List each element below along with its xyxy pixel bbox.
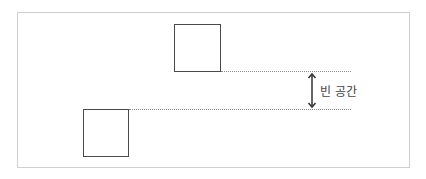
- top-square: [174, 24, 221, 72]
- empty-space-label: 빈 공간: [320, 82, 357, 99]
- bottom-square: [83, 109, 129, 157]
- bottom-guide-line: [129, 109, 351, 110]
- double-arrow-icon: [307, 72, 317, 109]
- top-guide-line: [221, 71, 351, 72]
